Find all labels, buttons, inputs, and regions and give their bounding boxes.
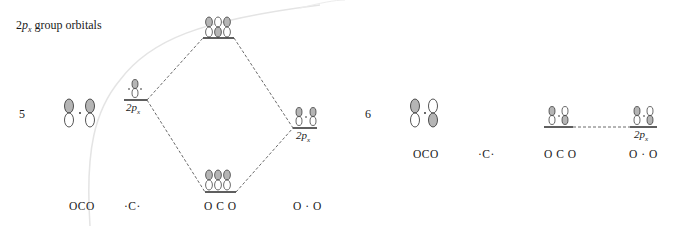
- antibonding-mo-orbital-icon: [206, 17, 231, 37]
- oxygen-5-label: O · O: [293, 200, 322, 212]
- oxygen-2px-label-6: 2px: [634, 128, 648, 143]
- group-orbital-6-label: OCO: [413, 148, 439, 160]
- oxygen-2px-orbital-icon: [296, 108, 316, 126]
- group-orbital-5-label: OCO: [69, 200, 95, 212]
- correlation-lines: [147, 38, 293, 192]
- group-orbital-5-icon: [65, 99, 95, 127]
- oxygen-6-label: O · O: [629, 148, 658, 160]
- mo-diagram-graphics: [0, 0, 677, 226]
- row-number-5: 5: [19, 107, 25, 122]
- carbon-2px-orbital-icon: [128, 80, 142, 98]
- bonding-mo-orbital-icon: [206, 170, 231, 190]
- oxygen-2px-orbital-6-icon: [634, 107, 653, 125]
- carbon-5-label: ·C·: [124, 200, 141, 212]
- carbon-6-label: ·C·: [478, 148, 495, 160]
- carbon-2px-label: 2px: [126, 101, 140, 116]
- row-number-6: 6: [365, 107, 371, 122]
- nonbonding-mo-orbital-icon: [549, 107, 568, 125]
- mo-5-label: O C O: [204, 200, 237, 212]
- mo-6-label: O C O: [544, 148, 577, 160]
- group-orbital-6-icon: [411, 99, 438, 127]
- oxygen-2px-label: 2px: [296, 129, 310, 144]
